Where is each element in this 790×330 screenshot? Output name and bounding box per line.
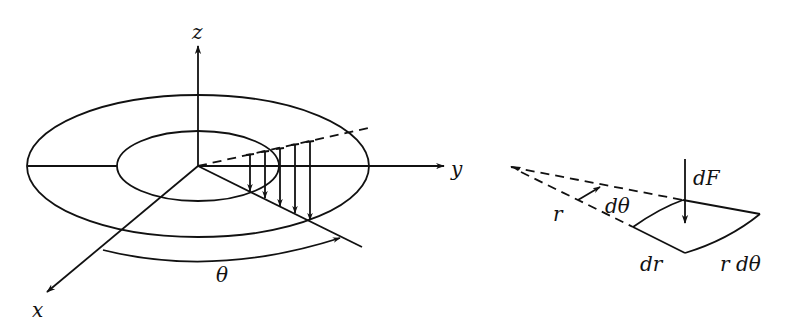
right-figure xyxy=(510,159,760,253)
element-bottom-edge xyxy=(633,227,685,253)
x-axis-label: x xyxy=(32,300,43,320)
element-inner-arc xyxy=(633,200,683,227)
dr-label: dr xyxy=(640,254,662,274)
element-outer-arc xyxy=(685,214,760,253)
z-axis-label: z xyxy=(192,22,203,42)
left-figure xyxy=(27,46,444,292)
r-label: r xyxy=(553,204,563,224)
upper-dashed-ray xyxy=(511,167,683,200)
x-axis xyxy=(47,166,198,292)
theta-label: θ xyxy=(216,265,228,285)
dF-label: dF xyxy=(693,168,720,188)
theta-arc xyxy=(103,238,340,262)
r-dtheta-label: r dθ xyxy=(720,254,761,274)
diagram-canvas xyxy=(0,0,790,330)
element-top-edge xyxy=(683,200,760,214)
dtheta-label: dθ xyxy=(605,196,630,216)
apex-arrowhead xyxy=(510,166,521,171)
load-arrows xyxy=(246,141,314,220)
angle-arrow xyxy=(578,187,600,200)
y-axis-label: y xyxy=(451,159,462,179)
